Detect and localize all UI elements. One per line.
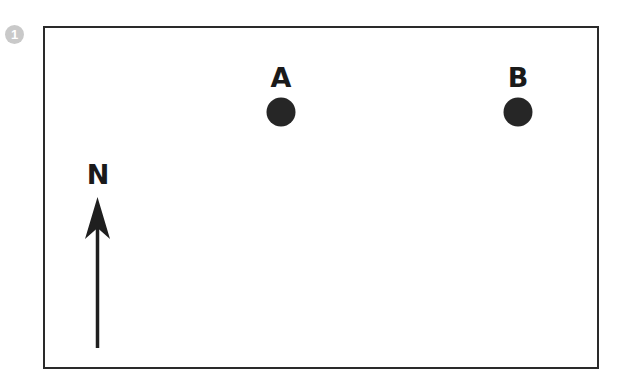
north-arrow-icon xyxy=(0,0,630,383)
